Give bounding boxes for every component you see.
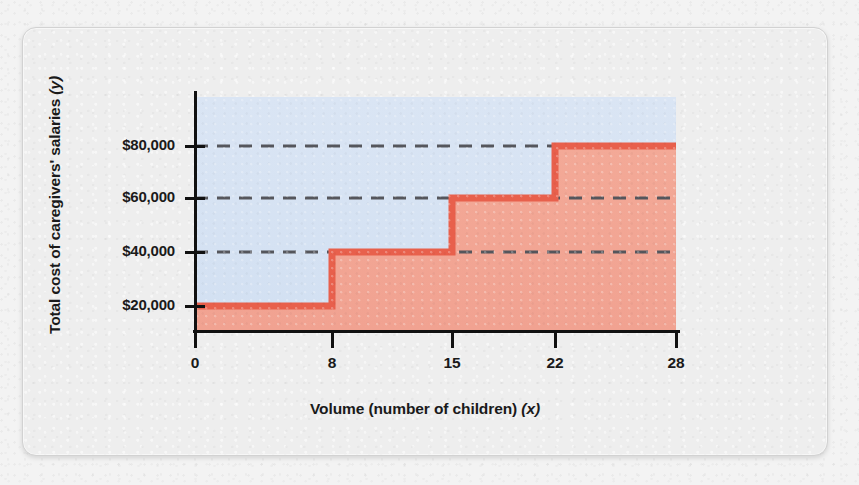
- chart-card: Total cost of caregivers' salaries (y): [22, 27, 828, 456]
- x-axis-title: Volume (number of children) (x): [23, 400, 827, 418]
- x-axis-title-variable: (x): [521, 400, 540, 417]
- y-tick-label-80000: $80,000: [63, 136, 175, 153]
- x-tick-mark-22: [554, 331, 557, 348]
- y-tick-mark-80000: [185, 145, 205, 148]
- x-tick-label-15: 15: [422, 354, 482, 372]
- x-tick-label-0: 0: [165, 354, 225, 372]
- x-tick-mark-28: [675, 331, 678, 348]
- y-axis-title-variable: (y): [46, 76, 63, 95]
- y-tick-mark-60000: [185, 197, 205, 200]
- plot-area: [195, 97, 676, 331]
- x-tick-mark-8: [331, 331, 334, 348]
- y-tick-label-40000: $40,000: [63, 242, 175, 259]
- x-axis-title-text: Volume (number of children): [310, 400, 517, 417]
- figure-root: Total cost of caregivers' salaries (y): [0, 0, 859, 485]
- x-tick-mark-15: [451, 331, 454, 348]
- y-tick-mark-20000: [185, 305, 205, 308]
- y-axis-title-text: Total cost of caregivers' salaries: [46, 99, 63, 334]
- step-chart-svg: [195, 97, 676, 331]
- x-tick-label-22: 22: [525, 354, 585, 372]
- y-axis-title: Total cost of caregivers' salaries (y): [46, 55, 64, 355]
- x-tick-label-28: 28: [646, 354, 706, 372]
- x-tick-mark-0: [194, 331, 197, 348]
- x-axis-line: [193, 330, 680, 333]
- y-tick-label-20000: $20,000: [63, 296, 175, 313]
- y-tick-label-60000: $60,000: [63, 188, 175, 205]
- y-tick-mark-40000: [185, 251, 205, 254]
- x-tick-label-8: 8: [302, 354, 362, 372]
